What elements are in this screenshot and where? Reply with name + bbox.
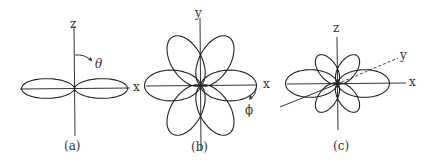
lobe-b-4 (167, 85, 205, 136)
caption-c: (c) (333, 139, 349, 153)
y-axis-label-c: y (399, 48, 407, 62)
x-axis-c (287, 83, 406, 84)
z-axis-label-c: z (333, 21, 339, 35)
z-axis-a (74, 26, 75, 136)
lobe-b-2 (167, 36, 205, 87)
x-axis-label-b: x (263, 77, 270, 91)
lobe-b-1 (196, 36, 234, 87)
theta-label: θ (95, 57, 103, 71)
panel-b: y x ϕ (b) (145, 6, 271, 154)
caption-b: (b) (191, 140, 208, 154)
panel-c: z x y (c) (280, 21, 416, 153)
y-axis-solid-c (280, 84, 337, 107)
z-axis-label-a: z (70, 17, 76, 31)
x-axis-label-a: x (133, 80, 140, 94)
caption-a: (a) (64, 139, 81, 153)
radiation-pattern-figure: z x θ (a) y x ϕ (b) z x y (c) (0, 0, 431, 163)
x-axis-label-c: x (409, 75, 416, 89)
lobe-b-5 (196, 85, 234, 136)
phi-label: ϕ (245, 103, 253, 117)
y-axis-label-b: y (194, 6, 202, 20)
panel-a: z x θ (a) (20, 17, 140, 153)
